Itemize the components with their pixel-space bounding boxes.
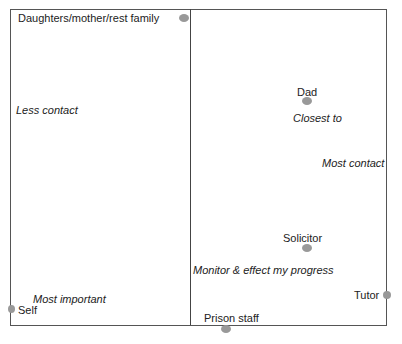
node-label-family: Daughters/mother/rest family bbox=[18, 12, 159, 24]
node-dot-solicitor bbox=[302, 244, 312, 252]
node-label-tutor: Tutor bbox=[354, 289, 379, 301]
node-label-solicitor: Solicitor bbox=[283, 232, 322, 244]
node-dot-family bbox=[179, 14, 189, 22]
node-dot-tutor bbox=[383, 291, 391, 299]
node-dot-dad bbox=[302, 97, 312, 105]
annotation-closest-to: Closest to bbox=[293, 112, 342, 124]
node-label-self: Self bbox=[18, 304, 37, 316]
annotation-monitor-progress: Monitor & effect my progress bbox=[193, 264, 334, 276]
annotation-less-contact: Less contact bbox=[16, 104, 78, 116]
node-dot-self bbox=[8, 305, 15, 313]
vertical-divider bbox=[190, 9, 191, 325]
annotation-most-contact: Most contact bbox=[322, 157, 384, 169]
node-label-prison-staff: Prison staff bbox=[204, 312, 259, 324]
annotation-most-important: Most important bbox=[33, 293, 106, 305]
node-dot-prison-staff bbox=[221, 325, 231, 333]
